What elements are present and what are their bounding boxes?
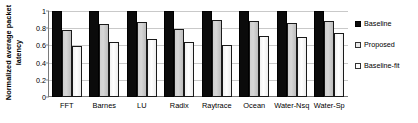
legend-label: Proposed [364, 40, 395, 49]
bar[interactable] [174, 29, 184, 97]
bar-group [198, 11, 236, 97]
bar[interactable] [147, 39, 157, 97]
x-axis-category-label: Barnes [86, 99, 124, 115]
bar-chart: Normalized average packet latency 10.80.… [0, 0, 418, 123]
legend-label: Baseline [364, 19, 392, 28]
bar-group [236, 11, 274, 97]
bar-group [311, 11, 349, 97]
bar[interactable] [297, 37, 307, 97]
legend-swatch-icon [355, 42, 361, 48]
x-axis-category-label: Ocean [236, 99, 274, 115]
bar[interactable] [277, 11, 287, 97]
y-axis-title-line-1: Normalized average packet [5, 5, 15, 100]
x-axis-category-label: Water-Nsq [273, 99, 311, 115]
bar[interactable] [72, 46, 82, 97]
bar[interactable] [137, 22, 147, 97]
bar[interactable] [202, 11, 212, 97]
bar[interactable] [239, 11, 249, 97]
plot-area [48, 11, 348, 97]
bar[interactable] [259, 36, 269, 97]
bar[interactable] [109, 42, 119, 97]
bar[interactable] [52, 11, 62, 97]
y-axis-tick-label: 0.2 [36, 75, 46, 84]
legend-item[interactable]: Proposed [355, 34, 418, 55]
legend: BaselineProposedBaseline-fit [355, 13, 418, 76]
bar[interactable] [249, 21, 259, 97]
bar[interactable] [62, 30, 72, 97]
legend-item[interactable]: Baseline [355, 13, 418, 34]
y-axis-tick-label: 0.4 [36, 58, 46, 67]
y-axis-title: Normalized average packet latency [0, 0, 28, 105]
bar-group [86, 11, 124, 97]
y-axis-tick-labels: 10.80.60.40.20 [26, 11, 46, 97]
bar-group [48, 11, 86, 97]
x-axis-category-label: Raytrace [198, 99, 236, 115]
bar[interactable] [287, 23, 297, 97]
y-axis-tick-label: 0.6 [36, 41, 46, 50]
bar-group [273, 11, 311, 97]
x-axis-category-label: Radix [161, 99, 199, 115]
x-axis-category-label: LU [123, 99, 161, 115]
bar-group [123, 11, 161, 97]
y-axis-title-line-2: latency [14, 5, 24, 100]
legend-item[interactable]: Baseline-fit [355, 55, 418, 76]
bar[interactable] [212, 20, 222, 97]
legend-label: Baseline-fit [364, 61, 400, 70]
bar[interactable] [314, 11, 324, 97]
bar[interactable] [324, 21, 334, 97]
bar[interactable] [184, 42, 194, 97]
x-axis-category-label: FFT [48, 99, 86, 115]
bar[interactable] [222, 45, 232, 97]
legend-swatch-icon [355, 21, 361, 27]
x-axis-category-labels: FFTBarnesLURadixRaytraceOceanWater-NsqWa… [48, 99, 348, 115]
bar[interactable] [99, 24, 109, 97]
bar-groups [48, 11, 348, 97]
y-axis-tick-label: 0.8 [36, 24, 46, 33]
x-axis-category-label: Water-Sp [311, 99, 349, 115]
bar[interactable] [127, 11, 137, 97]
bar[interactable] [164, 11, 174, 97]
bar[interactable] [334, 33, 344, 97]
bar-group [161, 11, 199, 97]
legend-swatch-icon [355, 63, 361, 69]
bar[interactable] [89, 11, 99, 97]
